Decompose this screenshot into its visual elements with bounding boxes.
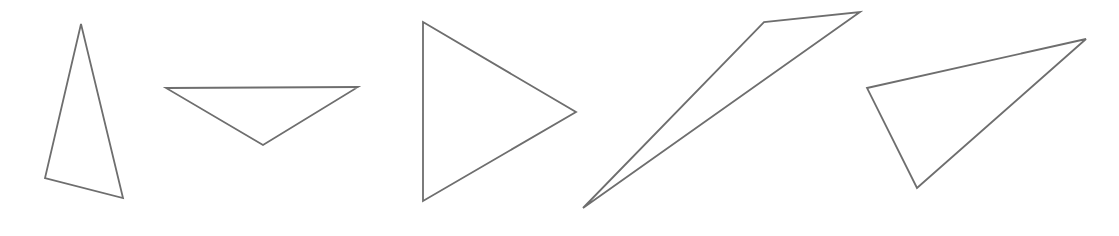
triangle-4 xyxy=(583,12,860,208)
triangle-3 xyxy=(423,22,576,201)
triangle-5 xyxy=(867,39,1086,188)
triangle-2 xyxy=(166,87,358,145)
triangle-1 xyxy=(45,24,123,198)
shapes-svg xyxy=(0,0,1119,236)
shape-canvas xyxy=(0,0,1119,236)
